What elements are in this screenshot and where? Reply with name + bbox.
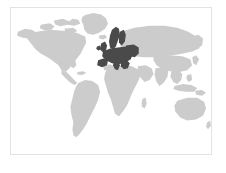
world-map-thumbnail <box>0 0 226 173</box>
world-map-svg <box>11 8 211 154</box>
map-frame <box>10 7 212 155</box>
